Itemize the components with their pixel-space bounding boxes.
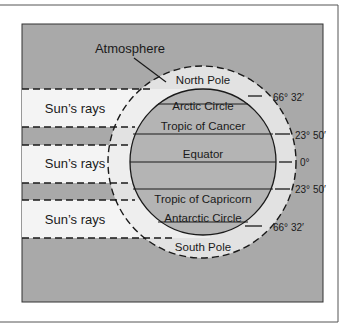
earth-sun-rays-diagram: Atmosphere Sun’s rays Sun’s rays Sun’s r… (0, 0, 350, 329)
arctic-circle-label: Arctic Circle (172, 100, 233, 112)
antarctic-circle-label: Antarctic Circle (164, 212, 241, 224)
equator-label: Equator (183, 148, 223, 160)
diagram-frame: Atmosphere Sun’s rays Sun’s rays Sun’s r… (0, 0, 350, 329)
tropic-of-capricorn-label: Tropic of Capricorn (154, 193, 251, 205)
antarctic-latitude-label: 66° 32′ (273, 222, 304, 233)
north-pole-label: North Pole (176, 74, 230, 86)
sun-rays-label-2: Sun’s rays (45, 156, 106, 171)
equator-latitude-label: 0° (300, 157, 310, 168)
tropic-of-cancer-label: Tropic of Cancer (161, 120, 246, 132)
arctic-latitude-label: 66° 32′ (273, 92, 304, 103)
sun-rays-label-3: Sun’s rays (45, 212, 106, 227)
south-pole-label: South Pole (175, 241, 231, 253)
capricorn-latitude-label: 23° 50′ (295, 184, 326, 195)
sun-rays-label-1: Sun’s rays (45, 101, 106, 116)
atmosphere-label: Atmosphere (95, 41, 165, 56)
cancer-latitude-label: 23° 50′ (295, 130, 326, 141)
